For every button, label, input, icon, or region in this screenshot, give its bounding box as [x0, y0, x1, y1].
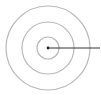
center-dot — [47, 47, 50, 50]
diagram-svg — [0, 0, 101, 100]
concentric-circles-diagram — [0, 0, 101, 100]
